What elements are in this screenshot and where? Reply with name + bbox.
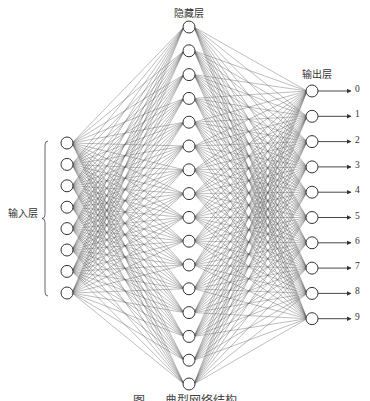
output-node: [306, 161, 318, 173]
input-node: [61, 223, 73, 235]
input-layer-label: 输入层: [8, 205, 38, 220]
input-node: [61, 287, 73, 299]
hidden-node: [183, 21, 195, 33]
output-class-label: 7: [355, 261, 360, 271]
output-class-label: 5: [355, 211, 360, 221]
hidden-node: [183, 235, 195, 247]
hidden-layer-label: 隐藏层: [174, 5, 204, 20]
input-node: [61, 137, 73, 149]
output-node: [306, 237, 318, 249]
input-node: [61, 244, 73, 256]
hidden-node: [183, 116, 195, 128]
output-class-label: 3: [355, 160, 360, 170]
output-class-label: 9: [355, 312, 360, 322]
neural-network-diagram: [0, 0, 370, 401]
output-arrows: [318, 91, 351, 319]
output-node: [306, 313, 318, 325]
hidden-node: [183, 140, 195, 152]
hidden-node: [183, 259, 195, 271]
hidden-node: [183, 164, 195, 176]
hidden-node: [183, 211, 195, 223]
output-class-label: 0: [355, 84, 360, 94]
hidden-node: [183, 283, 195, 295]
hidden-node: [183, 92, 195, 104]
output-node: [306, 110, 318, 122]
hidden-node: [183, 378, 195, 390]
input-node: [61, 265, 73, 277]
output-class-label: 4: [355, 185, 360, 195]
output-class-label: 6: [355, 236, 360, 246]
hidden-node: [183, 45, 195, 57]
output-node: [306, 212, 318, 224]
output-node: [306, 136, 318, 148]
input-node: [61, 201, 73, 213]
hidden-node: [183, 307, 195, 319]
output-node: [306, 186, 318, 198]
hidden-node: [183, 354, 195, 366]
output-node: [306, 287, 318, 299]
output-class-label: 1: [355, 109, 360, 119]
hidden-node: [183, 69, 195, 81]
input-node: [61, 158, 73, 170]
output-class-label: 2: [355, 135, 360, 145]
output-node: [306, 262, 318, 274]
hidden-node: [183, 330, 195, 342]
figure-caption: 图 ... 典型网络结构: [0, 394, 370, 401]
output-node: [306, 85, 318, 97]
hidden-node: [183, 188, 195, 200]
output-layer-label: 输出层: [302, 66, 332, 81]
input-node: [61, 180, 73, 192]
input-layer-brace: [42, 141, 48, 296]
output-class-label: 8: [355, 286, 360, 296]
